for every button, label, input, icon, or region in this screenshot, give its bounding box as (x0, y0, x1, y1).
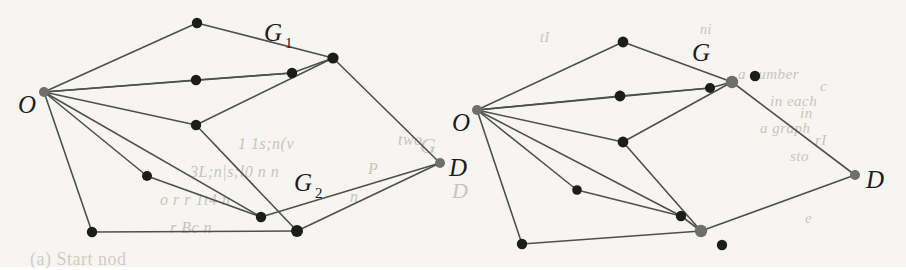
left-graph-panel: ODG1G2 (18, 18, 467, 237)
graph-edge (522, 231, 701, 244)
graph-node (618, 37, 629, 48)
graph-node (87, 227, 97, 237)
figure-caption-fragment: (a) Start nod (30, 249, 126, 270)
right-graph-panel: ODG (452, 37, 884, 251)
graph-node (291, 225, 303, 237)
graph-label-graph-upper-sub: 1 (285, 35, 293, 51)
graph-edge (44, 92, 92, 232)
graph-node (142, 171, 152, 181)
graph-label-graph-lower: G (294, 169, 312, 196)
graph-node (676, 211, 686, 221)
graph-edge (196, 73, 292, 80)
graph-node (327, 52, 338, 63)
graph-edge (477, 110, 623, 142)
graph-edge (477, 42, 623, 110)
graph-edge (44, 92, 261, 217)
graph-terminal-node (472, 105, 482, 115)
graph-node (572, 185, 582, 195)
graph-node (191, 75, 201, 85)
graph-label-destination: D (865, 166, 884, 193)
graph-label-destination: D (448, 154, 467, 181)
graph-label-graph: G (692, 39, 710, 66)
graph-isolated-node (750, 71, 760, 81)
graph-node (191, 120, 201, 130)
graph-terminal-node (850, 170, 860, 180)
graph-edge (701, 175, 855, 231)
graph-isolated-node (717, 240, 727, 250)
graph-terminal-node (435, 158, 445, 168)
graph-edge (623, 142, 701, 231)
graph-edge (196, 125, 297, 231)
graph-label-origin: O (18, 91, 36, 118)
graph-edge (44, 92, 196, 125)
graph-node (287, 68, 297, 78)
graph-node (615, 91, 626, 102)
graph-edge (477, 110, 577, 190)
graph-edge (44, 92, 147, 176)
graph-terminal-node (726, 76, 738, 88)
graph-label-graph-upper: G (264, 19, 282, 46)
graph-edge (196, 58, 333, 125)
graph-terminal-node (39, 87, 49, 97)
graph-node (517, 239, 527, 249)
graph-edge (620, 88, 710, 96)
graph-edge (623, 42, 732, 82)
graph-edge (732, 82, 855, 175)
graph-edge (333, 58, 440, 163)
graph-edge (477, 96, 620, 110)
graph-edge (261, 163, 440, 217)
graph-label-origin: O (452, 109, 470, 136)
graph-node (618, 137, 629, 148)
graph-edge (147, 176, 261, 217)
graph-node (705, 83, 715, 93)
graph-terminal-node (695, 225, 707, 237)
graph-label-graph-lower-sub: 2 (315, 185, 323, 201)
graph-node (256, 212, 266, 222)
graph-edge (92, 231, 297, 232)
graph-edge (577, 190, 681, 216)
graph-node (192, 18, 202, 28)
